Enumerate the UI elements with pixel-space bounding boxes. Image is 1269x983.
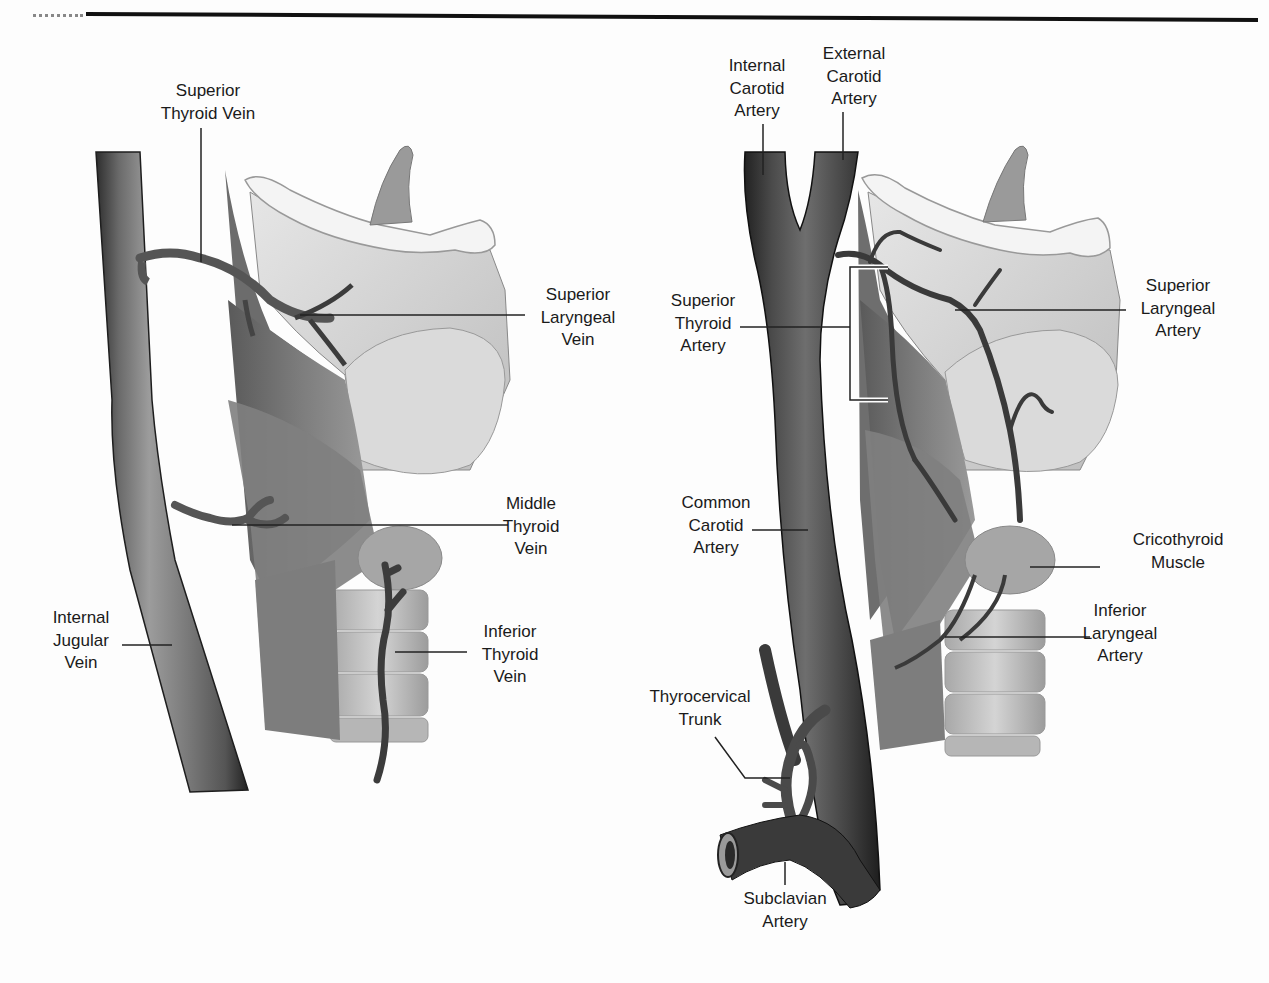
label-line: Artery	[743, 911, 826, 934]
label-superior-thyroid-vein: Superior Thyroid Vein	[161, 80, 256, 125]
label-line: Laryngeal	[1141, 298, 1216, 321]
label-external-carotid-artery: External Carotid Artery	[823, 43, 885, 111]
label-line: Superior	[161, 80, 256, 103]
label-line: Artery	[1083, 645, 1158, 668]
label-line: Superior	[541, 284, 616, 307]
label-line: Jugular	[53, 630, 110, 653]
label-line: Vein	[53, 652, 110, 675]
label-inferior-laryngeal-artery: Inferior Laryngeal Artery	[1083, 600, 1158, 668]
label-line: Thyroid Vein	[161, 103, 256, 126]
figure-artwork	[0, 0, 1269, 983]
label-common-carotid-artery: Common Carotid Artery	[682, 492, 751, 560]
label-line: Cricothyroid	[1133, 529, 1224, 552]
label-line: Thyrocervical	[649, 686, 750, 709]
label-line: Muscle	[1133, 552, 1224, 575]
label-line: Artery	[729, 100, 786, 123]
label-line: Thyroid	[482, 644, 539, 667]
larynx-right	[858, 146, 1120, 756]
label-line: Vein	[503, 538, 560, 561]
label-line: Vein	[541, 329, 616, 352]
label-inferior-thyroid-vein: Inferior Thyroid Vein	[482, 621, 539, 689]
larynx-left	[225, 146, 510, 742]
header-rule	[33, 14, 1258, 20]
left-panel-veins	[96, 146, 510, 792]
label-line: Inferior	[1083, 600, 1158, 623]
label-line: Carotid	[729, 78, 786, 101]
label-line: Artery	[682, 537, 751, 560]
larynx-blood-supply-figure: Superior Thyroid Vein Superior Laryngeal…	[0, 0, 1269, 983]
label-line: Inferior	[482, 621, 539, 644]
label-subclavian-artery: Subclavian Artery	[743, 888, 826, 933]
label-line: Laryngeal	[1083, 623, 1158, 646]
label-line: Subclavian	[743, 888, 826, 911]
label-line: Superior	[671, 290, 735, 313]
internal-jugular-vein-vessel	[96, 152, 248, 792]
label-line: Carotid	[682, 515, 751, 538]
label-line: Carotid	[823, 66, 885, 89]
label-superior-thyroid-artery: Superior Thyroid Artery	[671, 290, 735, 358]
label-superior-laryngeal-vein: Superior Laryngeal Vein	[541, 284, 616, 352]
label-internal-jugular-vein: Internal Jugular Vein	[53, 607, 110, 675]
label-line: Middle	[503, 493, 560, 516]
label-line: Thyroid	[503, 516, 560, 539]
label-line: Vein	[482, 666, 539, 689]
label-internal-carotid-artery: Internal Carotid Artery	[729, 55, 786, 123]
trachea-right	[945, 610, 1045, 756]
label-line: Internal	[729, 55, 786, 78]
label-middle-thyroid-vein: Middle Thyroid Vein	[503, 493, 560, 561]
label-line: Internal	[53, 607, 110, 630]
label-line: Laryngeal	[541, 307, 616, 330]
label-line: Trunk	[649, 709, 750, 732]
label-line: Superior	[1141, 275, 1216, 298]
label-line: External	[823, 43, 885, 66]
label-cricothyroid-muscle: Cricothyroid Muscle	[1133, 529, 1224, 574]
label-line: Common	[682, 492, 751, 515]
label-line: Thyroid	[671, 313, 735, 336]
right-panel-arteries	[718, 146, 1120, 908]
label-line: Artery	[823, 88, 885, 111]
label-thyrocervical-trunk: Thyrocervical Trunk	[649, 686, 750, 731]
label-line: Artery	[1141, 320, 1216, 343]
label-superior-laryngeal-artery: Superior Laryngeal Artery	[1141, 275, 1216, 343]
label-line: Artery	[671, 335, 735, 358]
